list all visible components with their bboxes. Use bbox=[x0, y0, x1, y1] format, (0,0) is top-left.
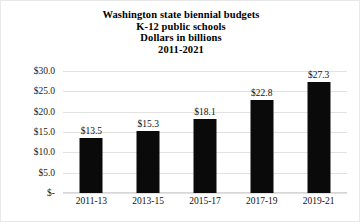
bar[interactable] bbox=[193, 119, 216, 193]
bars-layer: $13.5$15.3$18.1$22.8$27.3 bbox=[63, 71, 347, 193]
bar-slot: $18.1 bbox=[177, 71, 234, 193]
chart-title: Washington state biennial budgets K-12 p… bbox=[1, 9, 360, 55]
y-axis-tick-label: $20.0 bbox=[1, 107, 59, 117]
bar[interactable] bbox=[137, 131, 160, 193]
y-axis-tick-label: $30.0 bbox=[1, 66, 59, 76]
bar-value-label: $13.5 bbox=[81, 126, 102, 136]
bar-slot: $22.8 bbox=[233, 71, 290, 193]
bar-value-label: $18.1 bbox=[194, 107, 215, 117]
chart-title-line-3: Dollars in billions bbox=[1, 32, 360, 44]
bar-slot: $27.3 bbox=[290, 71, 347, 193]
y-axis-tick-label: $25.0 bbox=[1, 86, 59, 96]
x-axis-tick-label: 2017-19 bbox=[246, 196, 278, 206]
bar-slot: $15.3 bbox=[120, 71, 177, 193]
x-axis: 2011-132013-152015-172017-192019-21 bbox=[63, 196, 347, 212]
chart-title-line-1: Washington state biennial budgets bbox=[1, 9, 360, 21]
x-axis-tick-label: 2013-15 bbox=[132, 196, 164, 206]
bar[interactable] bbox=[250, 100, 273, 193]
x-axis-tick-label: 2011-13 bbox=[76, 196, 107, 206]
x-axis-tick-label: 2019-21 bbox=[303, 196, 335, 206]
bar-value-label: $22.8 bbox=[251, 88, 272, 98]
bar[interactable] bbox=[80, 138, 103, 193]
x-axis-tick-label: 2015-17 bbox=[189, 196, 221, 206]
chart-container: Washington state biennial budgets K-12 p… bbox=[0, 0, 360, 222]
y-axis-tick-label: $5.0 bbox=[1, 168, 59, 178]
chart-title-line-4: 2011-2021 bbox=[1, 44, 360, 56]
y-axis-tick-label: $15.0 bbox=[1, 127, 59, 137]
bar-value-label: $15.3 bbox=[138, 119, 159, 129]
y-axis-tick-label: $- bbox=[1, 188, 59, 198]
y-axis: $30.0$25.0$20.0$15.0$10.0$5.0$- bbox=[1, 71, 59, 193]
gridline bbox=[63, 193, 347, 194]
bar-slot: $13.5 bbox=[63, 71, 120, 193]
y-axis-tick-label: $10.0 bbox=[1, 147, 59, 157]
chart-title-line-2: K-12 public schools bbox=[1, 21, 360, 33]
bar[interactable] bbox=[307, 82, 330, 193]
bar-value-label: $27.3 bbox=[308, 70, 329, 80]
